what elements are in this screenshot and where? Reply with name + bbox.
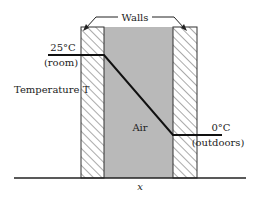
walls-arrow-right (152, 17, 184, 28)
left-wall (81, 27, 104, 178)
inside-place-label: (room) (44, 57, 78, 68)
walls-arrow-left (86, 17, 118, 28)
air-label: Air (131, 122, 147, 133)
right-wall (173, 27, 197, 178)
y-axis-label: Temperature T (14, 84, 90, 95)
wall-temperature-diagram: Walls 25°C (room) Temperature T Air 0°C … (0, 0, 259, 203)
inside-temp-label: 25°C (50, 42, 76, 53)
x-axis-label: x (137, 181, 143, 192)
outside-temp-label: 0°C (211, 122, 230, 133)
air-region (104, 27, 173, 178)
walls-label: Walls (122, 12, 149, 23)
outside-place-label: (outdoors) (192, 137, 245, 148)
